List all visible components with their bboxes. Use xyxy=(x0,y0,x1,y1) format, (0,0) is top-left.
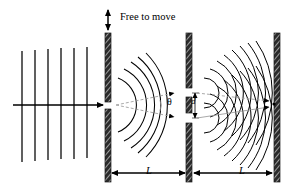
single-slit-barrier xyxy=(105,33,116,182)
detection-screen xyxy=(274,33,280,182)
theta-angle-label: θ xyxy=(167,97,172,107)
distance-label-1: L xyxy=(146,166,152,177)
bright-fringe-point xyxy=(272,102,275,105)
slit-separation-label: d xyxy=(191,97,196,106)
distance-label-2: L xyxy=(239,166,245,177)
diffraction-angle-rays xyxy=(116,93,174,117)
physics-diagram-figure: Free to move θ d L L xyxy=(0,0,292,195)
diffracted-wavefronts xyxy=(118,53,167,157)
free-to-move-label: Free to move xyxy=(120,12,175,23)
